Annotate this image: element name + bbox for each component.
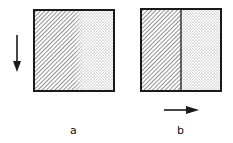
dotted-region: [181, 9, 221, 91]
arrow-right-icon: [164, 106, 199, 114]
panel-a: [13, 10, 114, 91]
panel-b: [141, 9, 221, 114]
panel-b-label: b: [177, 124, 184, 137]
hatched-region: [34, 10, 114, 91]
panel-a-label: a: [70, 124, 77, 137]
arrow-down-icon: [13, 35, 21, 72]
diagram-canvas: [0, 0, 233, 143]
hatched-region: [141, 9, 181, 91]
